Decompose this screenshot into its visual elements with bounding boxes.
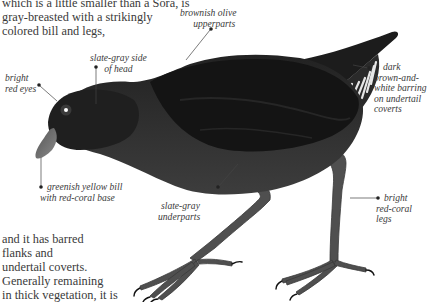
label-bill: greenish yellow bill with red-coral base	[40, 182, 122, 203]
label-line: greenish yellow bill	[40, 182, 122, 193]
label-side-of-head: slate-gray side of head	[90, 53, 147, 74]
bill	[35, 128, 56, 159]
label-line: white barring	[374, 83, 427, 94]
label-line: with red-coral base	[40, 193, 122, 204]
label-line: slate-gray side	[90, 53, 147, 64]
label-line: legs	[376, 214, 412, 225]
label-line: brownish olive	[180, 8, 236, 19]
label-line: red eyes	[5, 84, 36, 95]
left-leg	[140, 178, 270, 300]
outro-line: undertail coverts.	[2, 260, 118, 274]
label-line: of head	[90, 64, 147, 75]
label-upperparts: brownish olive upperparts	[180, 8, 236, 29]
intro-line: gray-breasted with a strikingly	[2, 10, 190, 24]
label-undertail: dark brown-and- white barring on underta…	[374, 62, 427, 115]
intro-line: which is a little smaller than a Sora, i…	[2, 0, 190, 10]
label-line: coverts	[374, 104, 427, 115]
intro-line: colored bill and legs,	[2, 24, 190, 38]
label-line: underparts	[158, 212, 200, 223]
label-eyes: bright red eyes	[5, 73, 36, 94]
outro-line: and it has barred	[2, 232, 118, 246]
label-line: bright	[5, 73, 36, 84]
label-legs: bright red-coral legs	[376, 193, 412, 225]
outro-line: flanks and	[2, 246, 118, 260]
label-line: upperparts	[180, 19, 236, 30]
outro-paragraph: and it has barred flanks and undertail c…	[2, 232, 118, 302]
outro-line: Generally remaining	[2, 274, 118, 288]
label-line: dark	[374, 62, 427, 73]
label-line: bright	[376, 193, 412, 204]
label-line: slate-gray	[158, 201, 200, 212]
label-underparts: slate-gray underparts	[158, 201, 200, 222]
intro-paragraph: which is a little smaller than a Sora, i…	[2, 0, 190, 38]
outro-line: in thick vegetation, it is	[2, 288, 118, 302]
